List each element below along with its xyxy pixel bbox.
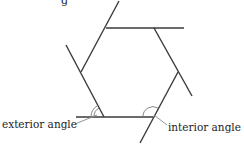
interior-angle-label: interior angle <box>168 121 241 133</box>
hexagon-angle-diagram: g exterior angle interior angle <box>0 0 244 146</box>
hexagon-edge-lower-left <box>66 45 104 117</box>
exterior-angle-label: exterior angle <box>2 118 77 130</box>
hexagon-edge-upper-left <box>81 1 119 72</box>
title-fragment: g <box>61 0 68 7</box>
interior-angle-arc <box>143 107 158 117</box>
interior-angle-leader <box>154 115 167 125</box>
hexagon-edge-upper-right <box>154 28 192 96</box>
diagram-svg: g exterior angle interior angle <box>0 0 244 146</box>
